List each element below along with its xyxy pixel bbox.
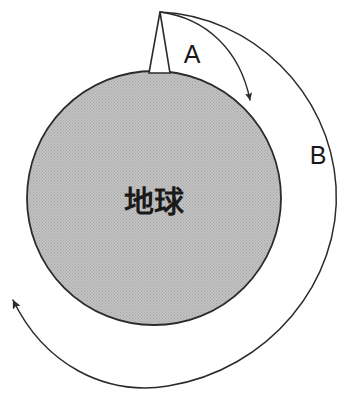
label-trajectory-b: B	[310, 141, 327, 169]
earth-label: 地球	[124, 184, 185, 219]
diagram-canvas: 地球 A B	[0, 0, 349, 402]
label-trajectory-a: A	[184, 40, 201, 68]
orbit-diagram: 地球 A B	[0, 0, 349, 402]
launch-tower	[149, 12, 170, 73]
